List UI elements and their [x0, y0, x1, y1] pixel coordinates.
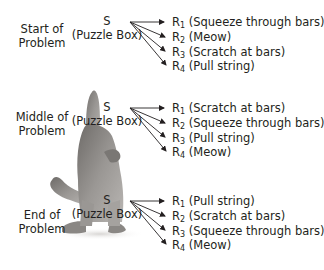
stage-label-start: Start of Problem: [14, 22, 70, 50]
stimulus-middle: S (Puzzle Box): [67, 100, 147, 128]
stimulus-description: (Puzzle Box): [67, 28, 147, 42]
stimulus-symbol: S: [67, 193, 147, 207]
response-end-4: R4 (Meow): [172, 238, 231, 256]
stimulus-end: S (Puzzle Box): [67, 193, 147, 221]
response-middle-4: R4 (Meow): [172, 145, 231, 163]
response-start-4: R4 (Pull string): [172, 59, 255, 77]
stimulus-symbol: S: [67, 100, 147, 114]
stage-label-line1: End of: [14, 208, 70, 222]
stage-label-line1: Middle of: [10, 110, 74, 124]
stage-label-end: End of Problem: [14, 208, 70, 236]
stimulus-symbol: S: [67, 14, 147, 28]
stage-label-line2: Problem: [14, 36, 70, 50]
stimulus-start: S (Puzzle Box): [67, 14, 147, 42]
stage-label-line1: Start of: [14, 22, 70, 36]
stage-label-line2: Problem: [10, 124, 74, 138]
stimulus-description: (Puzzle Box): [67, 114, 147, 128]
stage-label-middle: Middle of Problem: [10, 110, 74, 138]
stimulus-description: (Puzzle Box): [67, 207, 147, 221]
stage-label-line2: Problem: [14, 222, 70, 236]
